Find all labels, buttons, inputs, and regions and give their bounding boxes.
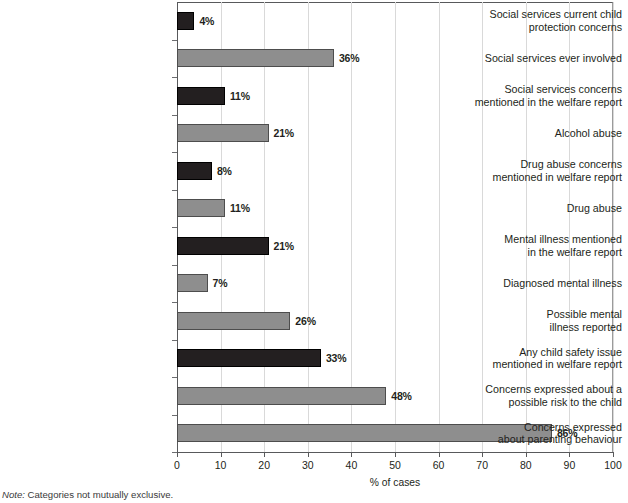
x-axis-tick-label: 20 (244, 459, 284, 471)
x-axis-tick-label: 0 (157, 459, 197, 471)
bar-value-label: 36% (339, 52, 359, 64)
category-label: Alcohol abuse (456, 127, 628, 140)
bar[interactable] (177, 124, 269, 142)
bar-value-label: 11% (230, 202, 250, 214)
category-label: Diagnosed mental illness (456, 277, 628, 290)
bar[interactable] (177, 199, 225, 217)
x-axis-tick-label: 50 (375, 459, 415, 471)
footnote-label: Note: (2, 489, 25, 500)
bar[interactable] (177, 12, 194, 30)
bar[interactable] (177, 274, 208, 292)
bar-value-label: 7% (213, 277, 228, 289)
bar-value-label: 21% (274, 240, 294, 252)
bar[interactable] (177, 162, 212, 180)
x-axis-tick-0 (177, 452, 178, 457)
category-label: Mental illness mentioned in the welfare … (456, 233, 628, 258)
y-axis-tick (172, 265, 177, 266)
bar[interactable] (177, 387, 386, 405)
y-axis-tick (172, 377, 177, 378)
y-axis-tick (172, 152, 177, 153)
y-axis-tick (172, 190, 177, 191)
x-axis-tick-80 (526, 452, 527, 457)
x-axis-tick-label: 70 (462, 459, 502, 471)
y-axis-tick (172, 115, 177, 116)
footnote-text: Categories not mutually exclusive. (25, 489, 173, 500)
category-label: Concerns expressed about parenting behav… (456, 421, 628, 446)
bar-value-label: 33% (326, 352, 346, 364)
x-axis-tick-label: 40 (331, 459, 371, 471)
bar-value-label: 26% (295, 315, 315, 327)
x-axis-tick-10 (221, 452, 222, 457)
y-axis-tick (172, 77, 177, 78)
bar-value-label: 11% (230, 90, 250, 102)
x-axis-tick-90 (569, 452, 570, 457)
x-axis-tick-label: 10 (201, 459, 241, 471)
gridline-60 (439, 2, 440, 452)
x-axis-tick-label: 90 (549, 459, 589, 471)
x-axis-tick-70 (482, 452, 483, 457)
category-label: Any child safety issue mentioned in welf… (456, 346, 628, 371)
x-axis-tick-50 (395, 452, 396, 457)
category-label: Social services current child protection… (456, 8, 628, 33)
x-axis-tick-30 (308, 452, 309, 457)
bar[interactable] (177, 87, 225, 105)
x-axis-tick-100 (613, 452, 614, 457)
y-axis-tick (172, 40, 177, 41)
x-axis-tick-label: 80 (506, 459, 546, 471)
category-label: Drug abuse concerns mentioned in welfare… (456, 158, 628, 183)
gridline-10 (221, 2, 222, 452)
x-axis-tick-40 (351, 452, 352, 457)
category-label: Possible mental illness reported (456, 308, 628, 333)
category-label: Drug abuse (456, 202, 628, 215)
y-axis-tick (172, 302, 177, 303)
category-label: Social services ever involved (456, 52, 628, 65)
x-axis-tick-label: 60 (419, 459, 459, 471)
bar[interactable] (177, 237, 269, 255)
category-label: Social services concerns mentioned in th… (456, 83, 628, 108)
x-axis-tick-60 (439, 452, 440, 457)
horizontal-bar-chart: 4%36%11%21%8%11%21%7%26%33%48%86% Social… (0, 0, 628, 503)
gridline-20 (264, 2, 265, 452)
bar-value-label: 8% (217, 165, 232, 177)
bar[interactable] (177, 349, 321, 367)
bar[interactable] (177, 312, 290, 330)
bar-value-label: 21% (274, 127, 294, 139)
x-axis-title: % of cases (177, 477, 613, 488)
x-axis-tick-label: 30 (288, 459, 328, 471)
gridline-50 (395, 2, 396, 452)
y-axis-tick (172, 227, 177, 228)
x-axis-tick-20 (264, 452, 265, 457)
x-axis-tick-label: 100 (593, 459, 628, 471)
category-label: Concerns expressed about a possible risk… (456, 383, 628, 408)
y-axis-tick (172, 415, 177, 416)
bar-value-label: 4% (199, 15, 214, 27)
y-axis-tick (172, 340, 177, 341)
chart-footnote: Note: Categories not mutually exclusive. (2, 489, 173, 500)
bar-value-label: 48% (391, 390, 411, 402)
gridline-30 (308, 2, 309, 452)
bar[interactable] (177, 49, 334, 67)
gridline-40 (351, 2, 352, 452)
